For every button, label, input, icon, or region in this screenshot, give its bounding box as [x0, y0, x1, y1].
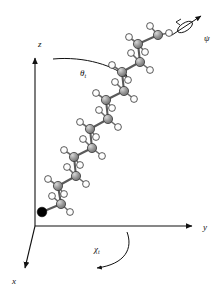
hydrogen-atom	[166, 30, 173, 37]
hydrogen-atom	[45, 176, 52, 183]
z-axis-label: z	[37, 39, 42, 49]
hydrogen-atom	[125, 77, 132, 84]
carbon-atom	[101, 95, 110, 104]
carbon-atom	[103, 114, 112, 123]
figure-canvas: z y x θt χt ψ	[0, 0, 224, 292]
hydrogen-atom	[61, 147, 68, 154]
hydrogen-atom	[109, 105, 116, 112]
hydrogen-atom	[131, 96, 138, 103]
carbon-atom	[153, 30, 162, 39]
hydrogen-atom	[61, 191, 68, 198]
chi-arc-path	[97, 232, 129, 268]
x-axis-label: x	[11, 276, 16, 286]
chi-angle-arc: χt	[93, 232, 129, 268]
hydrogen-atom	[142, 49, 149, 56]
hydrogen-atom	[93, 90, 100, 97]
hydrogen-atom	[112, 79, 119, 86]
chi-label: χt	[93, 244, 100, 255]
theta-subscript: t	[84, 73, 86, 79]
carbon-atom	[56, 199, 65, 208]
hydrogen-atom	[77, 162, 84, 169]
carbon-atom	[69, 152, 78, 161]
carbon-atom	[53, 181, 62, 190]
psi-axis-arrow	[172, 16, 201, 35]
hydrogen-atom	[147, 23, 154, 30]
hydrogen-atom	[67, 209, 74, 216]
carbon-atoms	[53, 30, 162, 208]
theta-label: θt	[80, 68, 86, 79]
hydrogen-atom	[96, 107, 103, 114]
diagram-svg: z y x θt χt ψ	[0, 0, 224, 292]
hydrogen-atom	[126, 34, 133, 41]
coordinate-axes: z y x	[11, 39, 207, 286]
hydrogen-atom	[115, 124, 122, 131]
carbon-atom	[119, 86, 128, 95]
hydrogen-atom	[83, 181, 90, 188]
hydrogen-atom	[77, 119, 84, 126]
chi-subscript: t	[98, 249, 100, 255]
hydrogen-atom	[147, 67, 154, 74]
carbon-atom	[133, 39, 142, 48]
psi-rotation-symbol: ψ	[172, 16, 210, 43]
hydrogen-atom	[93, 134, 100, 141]
carbon-atom	[71, 171, 80, 180]
carbon-atom	[117, 67, 126, 76]
carbon-atom	[87, 143, 96, 152]
x-axis-line	[25, 226, 35, 268]
hydrogen-atom	[64, 164, 71, 171]
carbon-atom	[135, 57, 144, 66]
terminal-black-atom	[37, 207, 47, 217]
hydrogen-atom	[49, 193, 56, 200]
hydrogen-atom	[80, 136, 87, 143]
hydrogen-atom	[128, 50, 135, 57]
y-axis-label: y	[202, 222, 207, 232]
psi-rotation-arrowhead	[176, 19, 181, 25]
carbon-atom	[85, 124, 94, 133]
hydrogen-atom	[99, 153, 106, 160]
hydrogen-atom	[109, 62, 116, 69]
psi-label: ψ	[204, 33, 210, 43]
